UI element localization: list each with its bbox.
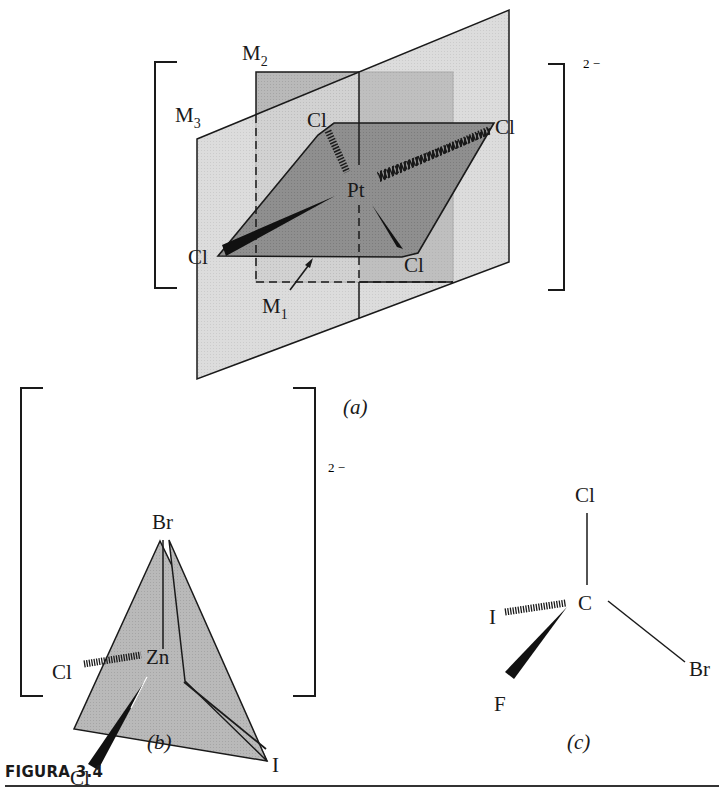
caption-b: (b)	[147, 730, 172, 754]
figure-title: FIGURA 3.4	[5, 763, 103, 781]
atom-cl-c: Cl	[575, 483, 595, 507]
caption-a: (a)	[343, 395, 368, 419]
wedge-bond-c-f	[505, 607, 567, 679]
atom-i-c: I	[489, 605, 496, 629]
atom-cl-right: Cl	[495, 115, 515, 139]
atom-cl-left: Cl	[188, 245, 208, 269]
atom-c: C	[578, 591, 592, 615]
hashed-bond-c-i	[505, 603, 566, 612]
bond-c-br	[608, 601, 685, 662]
atom-f-c: F	[494, 692, 506, 716]
atom-br-b: Br	[152, 510, 173, 534]
left-bracket-a	[155, 62, 177, 288]
charge-a: 2 −	[583, 56, 600, 71]
atom-i-b: I	[272, 753, 279, 777]
figure-rule	[5, 785, 719, 787]
atom-br-c: Br	[689, 657, 710, 681]
right-bracket-a	[548, 64, 564, 290]
label-m3: M3	[175, 103, 201, 131]
panel-a: Pt Cl Cl Cl Cl M2 M3 M1 2 − (a)	[155, 10, 600, 419]
atom-zn: Zn	[146, 645, 170, 669]
figure-canvas: Pt Cl Cl Cl Cl M2 M3 M1 2 − (a) Br Zn Cl…	[0, 0, 719, 801]
atom-cl-top: Cl	[307, 108, 327, 132]
panel-b: Br Zn Cl Cl I 2 − (b)	[21, 388, 345, 790]
atom-pt: Pt	[347, 178, 365, 202]
right-bracket-b	[293, 388, 315, 696]
panel-c: Cl C I F Br (c)	[489, 483, 710, 754]
left-bracket-b	[21, 388, 43, 696]
atom-cl-b-left: Cl	[52, 660, 72, 684]
atom-cl-bottom: Cl	[404, 253, 424, 277]
caption-c: (c)	[567, 730, 590, 754]
charge-b: 2 −	[328, 460, 345, 475]
label-m2: M2	[242, 41, 268, 69]
